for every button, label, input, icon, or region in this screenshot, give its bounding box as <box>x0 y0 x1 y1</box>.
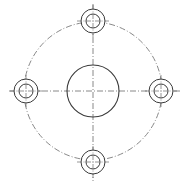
flange-drawing <box>0 0 188 187</box>
